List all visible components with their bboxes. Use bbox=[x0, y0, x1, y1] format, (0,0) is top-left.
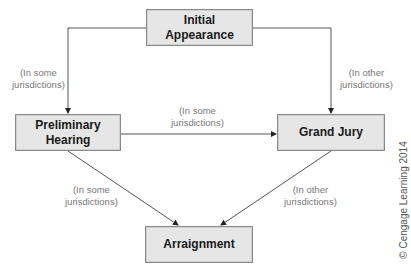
copyright-credit: © Cengage Learning 2014 bbox=[398, 141, 409, 258]
edge-label-line: (In some bbox=[12, 67, 65, 79]
node-arraignment: Arraignment bbox=[145, 226, 253, 263]
edge-label-line: jurisdictions) bbox=[65, 196, 118, 208]
edge-label-line: jurisdictions) bbox=[284, 196, 337, 208]
node-initial-line2: Appearance bbox=[165, 28, 234, 43]
edge-initial-to-grandjury bbox=[253, 28, 331, 113]
node-preliminary-line2: Hearing bbox=[35, 133, 100, 148]
edge-label-line: (In other bbox=[284, 184, 337, 196]
node-grand-jury: Grand Jury bbox=[277, 114, 385, 151]
edge-label-initial-to-preliminary: (In some jurisdictions) bbox=[12, 67, 65, 91]
edge-label-initial-to-grandjury: (In other jurisdictions) bbox=[340, 67, 393, 91]
edge-label-line: jurisdictions) bbox=[171, 117, 224, 129]
edge-initial-to-preliminary bbox=[68, 28, 146, 113]
node-initial-appearance: Initial Appearance bbox=[146, 9, 253, 46]
edge-label-line: (In other bbox=[340, 67, 393, 79]
edge-label-line: (In some bbox=[171, 105, 224, 117]
edge-label-preliminary-to-arraignment: (In some jurisdictions) bbox=[65, 184, 118, 208]
node-initial-line1: Initial bbox=[165, 13, 234, 28]
edge-label-line: jurisdictions) bbox=[12, 79, 65, 91]
node-grand-jury-label: Grand Jury bbox=[299, 125, 363, 140]
edge-label-grandjury-to-arraignment: (In other jurisdictions) bbox=[284, 184, 337, 208]
edge-label-line: (In some bbox=[65, 184, 118, 196]
edge-label-line: jurisdictions) bbox=[340, 79, 393, 91]
node-preliminary-hearing: Preliminary Hearing bbox=[15, 114, 121, 151]
node-arraignment-label: Arraignment bbox=[163, 237, 234, 252]
node-preliminary-line1: Preliminary bbox=[35, 118, 100, 133]
edge-label-preliminary-to-grandjury: (In some jurisdictions) bbox=[171, 105, 224, 129]
